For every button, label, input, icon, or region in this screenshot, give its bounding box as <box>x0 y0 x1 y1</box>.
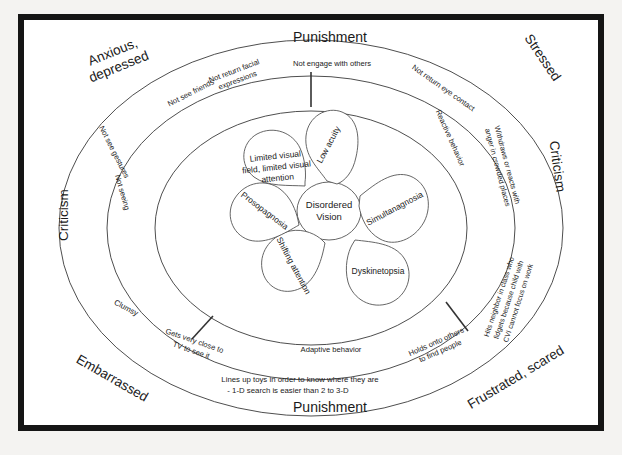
corner-label-criticism-left: Criticism <box>56 189 71 241</box>
title-punishment-top: Punishment <box>293 29 367 45</box>
corner-label-anxious-depressed: Anxious, depressed <box>81 33 151 85</box>
ring-label-lines-up-toys-line1: Lines up toys in order to know where the… <box>221 375 378 384</box>
corner-label-frustrated-scared: Frustrated, scared <box>465 343 567 412</box>
ring-label-withdraws-or-reacts: Withdraws or reacts with anger in crowde… <box>483 125 522 208</box>
corner-label-embarrassed: Embarrassed <box>74 352 151 405</box>
corner-label-criticism-right: Criticism <box>546 140 568 193</box>
ring-label-adaptive-behavior: Adaptive behavior <box>301 345 362 354</box>
title-punishment-bottom: Punishment <box>293 399 367 415</box>
ring-label-not-return-eye-contact: Not return eye contact <box>410 63 477 114</box>
center-label-line1: Disordered <box>306 199 352 210</box>
ring-label-lines-up-toys-line2: - 1-D search is easier than 2 to 3-D <box>227 386 349 395</box>
ring-label-not-engage-with-others: Not engage with others <box>293 59 371 68</box>
cvi-concentric-diagram: Disordered Vision Low acuity Simultanagn… <box>0 0 622 455</box>
screenshot-canvas: Disordered Vision Low acuity Simultanagn… <box>0 0 622 455</box>
ring-label-not-see-gestures: Not see gestures <box>97 124 131 179</box>
ring-label-not-seeing: Not seeing <box>113 174 132 211</box>
ring-label-holds-onto-others: Holds onto others to find people <box>407 326 469 368</box>
petal-label-dyskinetopsia: Dyskinetopsia <box>352 266 405 276</box>
ring-label-hits-neighbor-in-class: Hits neighbor in class who fidgets becau… <box>482 256 535 344</box>
corner-label-stressed: Stressed <box>522 31 564 84</box>
center-label-line2: Vision <box>316 211 342 222</box>
ring-label-not-see-friends: Not see friends <box>166 77 216 108</box>
ring-label-clumsy: Clumsy <box>113 298 140 318</box>
ring-label-gets-very-close-to-tv: Gets very close to TV to see it <box>161 327 225 365</box>
ring-label-not-return-facial-expressions: Not return facial expressions <box>207 57 264 94</box>
